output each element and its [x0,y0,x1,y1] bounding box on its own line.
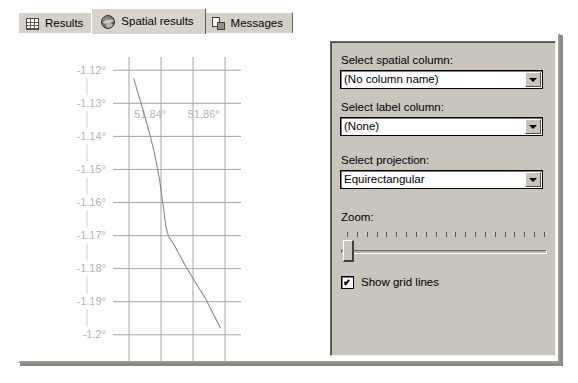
tab-strip: Results Spatial results Messages [18,8,308,34]
show-grid-lines-checkbox[interactable] [341,276,354,289]
zoom-tick [426,232,427,237]
zoom-tick [544,232,545,237]
plot-tick-labels: -1.12°-1.13°-1.14°-1.15°-1.16°-1.17°-1.1… [77,64,220,341]
frame-shadow-right [560,35,563,366]
zoom-tick [357,232,358,237]
projection-label: Select projection: [341,155,429,167]
zoom-tick [377,232,378,237]
chevron-down-icon[interactable] [525,72,541,87]
zoom-tick [436,232,437,237]
tab-messages[interactable]: Messages [204,12,293,34]
zoom-tick [367,232,368,237]
zoom-tick [465,232,466,237]
zoom-slider-thumb[interactable] [343,240,354,262]
spatial-map-panel[interactable]: -1.12°-1.13°-1.14°-1.15°-1.16°-1.17°-1.1… [20,35,323,361]
y-tick-label: -1.12° [77,64,106,76]
y-tick-label: -1.17° [77,229,106,241]
zoom-tick [446,232,447,237]
label-column-value: (None) [341,121,525,133]
x-tick-label: 51.86° [188,108,220,120]
chevron-down-icon[interactable] [525,119,541,134]
zoom-tick [455,232,456,237]
frame-shadow-bottom [20,363,562,366]
zoom-tick [396,232,397,237]
y-tick-label: -1.13° [77,97,106,109]
zoom-tick [524,232,525,237]
spatial-column-value: (No column name) [341,74,525,86]
projection-value: Equirectangular [341,174,525,186]
label-column-select[interactable]: (None) [340,117,543,136]
options-panel-inner: Select spatial column: (No column name) … [333,44,553,353]
zoom-slider[interactable] [341,232,547,266]
y-tick-label: -1.15° [77,163,106,175]
tab-messages-label: Messages [231,18,283,30]
projection-select[interactable]: Equirectangular [340,170,543,189]
zoom-tick [485,232,486,237]
tab-results[interactable]: Results [18,12,93,34]
spatial-column-label: Select spatial column: [341,55,453,67]
spatial-column-select[interactable]: (No column name) [340,70,543,89]
zoom-tick [534,232,535,237]
zoom-slider-track[interactable] [341,250,547,254]
zoom-tick [475,232,476,237]
x-tick-label: 51.84° [134,108,166,120]
zoom-tick [347,232,348,237]
zoom-label: Zoom: [341,212,374,224]
zoom-tick [514,232,515,237]
grid-icon [26,18,39,30]
zoom-tick [386,232,387,237]
zoom-slider-ticks [347,232,545,238]
label-column-label: Select label column: [341,102,444,114]
tab-spatial-results[interactable]: Spatial results [91,8,205,34]
show-grid-lines-checkbox-row[interactable]: Show grid lines [341,276,439,289]
y-tick-label: -1.19° [77,295,106,307]
spatial-plot: -1.12°-1.13°-1.14°-1.15°-1.16°-1.17°-1.1… [20,35,323,361]
y-tick-label: -1.18° [77,262,106,274]
zoom-tick [406,232,407,237]
zoom-tick [416,232,417,237]
y-tick-label: -1.14° [77,130,106,142]
tab-spatial-results-label: Spatial results [121,16,193,28]
y-tick-label: -1.16° [77,196,106,208]
y-tick-label: -1.2° [83,328,106,340]
message-icon [212,17,225,30]
zoom-tick [495,232,496,237]
zoom-tick [505,232,506,237]
options-panel: Select spatial column: (No column name) … [330,41,556,356]
show-grid-lines-label: Show grid lines [361,277,439,289]
tab-results-label: Results [45,18,83,30]
globe-icon [101,15,115,29]
chevron-down-icon[interactable] [525,172,541,187]
